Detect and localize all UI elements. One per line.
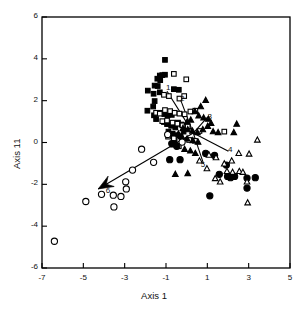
marker-open-square [172, 110, 177, 115]
vector-label-6: 6 [106, 186, 110, 195]
marker-open-square [160, 119, 165, 124]
marker-open-circle [110, 192, 116, 198]
y-tick-label: -2 [20, 178, 38, 187]
marker-filled-triangle [173, 171, 179, 176]
x-axis-label: Axis 1 [0, 290, 308, 301]
x-tick-label: -5 [74, 273, 92, 282]
marker-filled-triangle [193, 150, 199, 155]
marker-open-triangle [245, 200, 251, 205]
marker-filled-triangle [234, 121, 240, 126]
marker-open-square [172, 72, 177, 77]
marker-filled-circle [244, 185, 250, 191]
marker-filled-square [163, 58, 168, 63]
marker-open-square [182, 112, 187, 117]
marker-filled-circle [167, 157, 173, 163]
marker-open-triangle [236, 150, 242, 155]
vector-label-2: 2 [180, 94, 184, 103]
marker-open-square [167, 94, 172, 99]
marker-open-square [177, 111, 182, 116]
marker-open-square [158, 111, 163, 116]
marker-open-triangle [255, 137, 261, 142]
y-tick-label: -4 [20, 220, 38, 229]
x-tick-label: 5 [281, 273, 299, 282]
series-open-circle [51, 131, 185, 244]
marker-open-circle [118, 193, 124, 199]
axes-frame [42, 17, 290, 268]
marker-filled-triangle [176, 131, 182, 136]
marker-open-square [170, 120, 175, 125]
vector-label-1: 1 [166, 83, 170, 92]
marker-open-circle [51, 238, 57, 244]
scatter-plot-canvas [0, 0, 308, 313]
marker-filled-square [172, 87, 177, 92]
marker-open-triangle [230, 169, 236, 174]
marker-open-square [184, 77, 189, 82]
marker-filled-square [151, 91, 156, 96]
marker-open-circle [83, 198, 89, 204]
marker-open-circle [123, 186, 129, 192]
marker-open-square [165, 118, 170, 123]
marker-filled-triangle [185, 170, 191, 175]
marker-open-circle [139, 146, 145, 152]
marker-open-circle [165, 131, 171, 137]
marker-filled-triangle [203, 97, 209, 102]
y-tick-label: 2 [20, 95, 38, 104]
y-tick-label: 0 [20, 137, 38, 146]
marker-open-square [162, 93, 167, 98]
marker-open-circle [98, 191, 104, 197]
x-tick-label: 1 [198, 273, 216, 282]
series-open-square [154, 72, 227, 149]
vector-label-4: 4 [228, 145, 232, 154]
marker-filled-circle [252, 175, 258, 181]
marker-filled-square [152, 99, 157, 104]
marker-open-circle [151, 159, 157, 165]
marker-filled-triangle [210, 129, 216, 134]
marker-open-triangle [240, 169, 246, 174]
x-tick-label: -1 [157, 273, 175, 282]
marker-open-triangle [217, 179, 223, 184]
x-tick-label: -7 [33, 273, 51, 282]
marker-filled-triangle [200, 126, 206, 131]
figure-root: Axis 1 Axis 11 -7-5-3-11356420-2-4-6 123… [0, 0, 308, 313]
marker-filled-triangle [201, 115, 207, 120]
marker-filled-square [154, 117, 159, 122]
marker-open-circle [111, 204, 117, 210]
biplot-vectors [98, 91, 228, 189]
marker-filled-square [145, 108, 150, 113]
marker-filled-square [177, 87, 182, 92]
marker-open-square [222, 129, 227, 134]
series-filled-circle [167, 140, 259, 198]
x-tick-label: 3 [240, 273, 258, 282]
marker-open-circle [129, 167, 135, 173]
marker-filled-triangle [215, 129, 221, 134]
marker-filled-triangle [188, 148, 194, 153]
marker-open-triangle [224, 168, 230, 173]
marker-filled-circle [216, 171, 222, 177]
y-tick-label: -6 [20, 262, 38, 271]
axis-ticks [42, 17, 290, 268]
marker-open-square [168, 109, 173, 114]
marker-open-square [163, 108, 168, 113]
marker-filled-circle [174, 143, 180, 149]
marker-filled-triangle [182, 146, 188, 151]
marker-filled-circle [207, 193, 213, 199]
marker-filled-square [163, 72, 168, 77]
marker-filled-square [155, 84, 160, 89]
y-tick-label: 6 [20, 11, 38, 20]
marker-open-circle [123, 179, 129, 185]
marker-open-square [175, 121, 180, 126]
marker-open-circle [179, 139, 185, 145]
marker-filled-square [151, 104, 156, 109]
marker-filled-square [146, 88, 151, 93]
x-tick-label: -3 [116, 273, 134, 282]
marker-filled-triangle [231, 129, 237, 134]
marker-filled-circle [177, 157, 183, 163]
vector-label-5: 5 [201, 160, 205, 169]
marker-filled-square [158, 78, 163, 83]
vector-label-3: 3 [207, 112, 211, 121]
marker-open-triangle [229, 158, 235, 163]
y-tick-label: 4 [20, 53, 38, 62]
marker-open-triangle [246, 151, 252, 156]
marker-filled-triangle [198, 103, 204, 108]
